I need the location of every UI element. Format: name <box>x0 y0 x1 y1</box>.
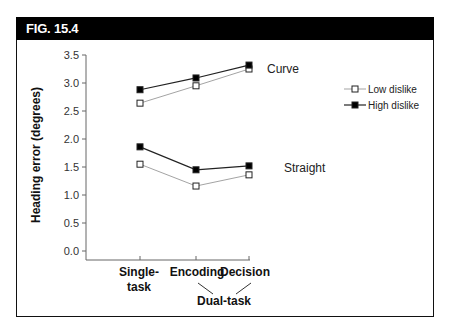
x-category-label: Encoding <box>170 265 225 279</box>
y-tick-label: 1.5 <box>64 161 79 173</box>
x-category-label: Decision <box>220 265 270 279</box>
dual-task-bracket-left <box>198 283 213 294</box>
legend-label: Low dislike <box>368 84 417 95</box>
filled-square-marker <box>193 75 199 81</box>
y-tick-label: 2.0 <box>64 133 79 145</box>
open-square-marker <box>137 161 143 167</box>
line-chart: 0.00.51.01.52.02.53.03.5Heading error (d… <box>0 0 452 331</box>
filled-square-marker <box>246 62 252 68</box>
filled-square-marker <box>246 163 252 169</box>
y-tick-label: 0.0 <box>64 245 79 257</box>
open-square-marker <box>193 183 199 189</box>
x-category-label: Single- <box>119 265 159 279</box>
filled-square-marker <box>137 144 143 150</box>
dual-task-bracket-right <box>236 283 251 294</box>
y-tick-label: 3.5 <box>64 49 79 61</box>
annotation-straight: Straight <box>284 161 326 175</box>
y-tick-label: 1.0 <box>64 189 79 201</box>
y-tick-label: 0.5 <box>64 217 79 229</box>
open-square-marker <box>246 172 252 178</box>
y-axis-title: Heading error (degrees) <box>29 87 43 223</box>
legend-label: High dislike <box>368 100 420 111</box>
x-category-label: task <box>127 280 151 294</box>
legend-open-square-icon <box>352 86 358 92</box>
open-square-marker <box>137 100 143 106</box>
dual-task-label: Dual-task <box>197 294 251 308</box>
legend-filled-square-icon <box>352 102 358 108</box>
y-tick-label: 2.5 <box>64 105 79 117</box>
filled-square-marker <box>137 87 143 93</box>
filled-square-marker <box>193 167 199 173</box>
y-tick-label: 3.0 <box>64 77 79 89</box>
open-square-marker <box>193 83 199 89</box>
annotation-curve: Curve <box>267 62 299 76</box>
